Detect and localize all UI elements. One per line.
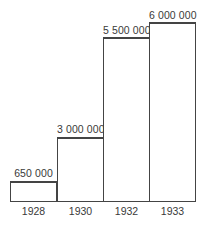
x-axis-baseline — [10, 201, 196, 202]
bar-value-label-1933: 6 000 000 — [149, 9, 196, 21]
category-label-1932: 1932 — [103, 205, 150, 217]
bar-value-label-1930: 3 000 000 — [57, 123, 104, 135]
category-label-1928: 1928 — [10, 205, 57, 217]
bar-chart: 650 000 1928 3 000 000 1930 5 500 000 19… — [0, 0, 212, 228]
bar-value-label-1932: 5 500 000 — [103, 24, 150, 36]
category-label-1933: 1933 — [149, 205, 196, 217]
bar-1932 — [103, 37, 150, 202]
bar-1928 — [10, 181, 57, 202]
category-label-1930: 1930 — [57, 205, 104, 217]
bar-1933 — [149, 22, 196, 202]
bar-value-label-1928: 650 000 — [10, 167, 57, 179]
bar-1930 — [57, 137, 104, 202]
